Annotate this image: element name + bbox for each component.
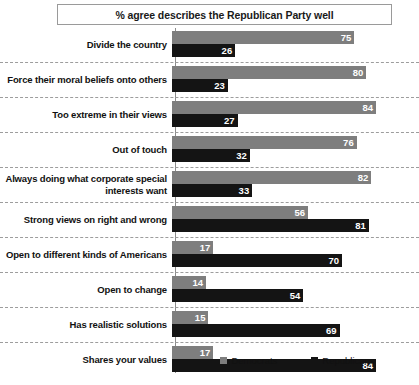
bar-value-label: 75 [341,32,355,43]
bar-republicans: 69 [172,324,340,337]
chart-title: % agree describes the Republican Party w… [115,9,333,21]
bar-democrats: 75 [172,31,354,44]
bar-row-inner: Force their moral beliefs onto others802… [0,63,419,97]
bar-row-inner: Out of touch7632 [0,133,419,167]
bar-value-label: 76 [343,137,357,148]
bar-republicans: 54 [172,289,303,302]
legend-item-democrats: Democrats [220,355,277,366]
bar-row: Out of touch7632 [0,133,419,168]
bar-group: 1569 [172,311,419,338]
bar-value-label: 14 [192,277,206,288]
bar-value-label: 82 [358,172,372,183]
bar-row: Too extreme in their views8427 [0,98,419,133]
bar-group: 1770 [172,241,419,268]
bar-row: Force their moral beliefs onto others802… [0,63,419,98]
bar-value-label: 54 [290,290,304,301]
category-label: Shares your values [0,354,172,366]
bar-row: Open to change1454 [0,273,419,308]
bar-row: Has realistic solutions1569 [0,308,419,343]
bar-democrats: 82 [172,171,371,184]
bar-republicans: 81 [172,219,369,232]
bar-group: 7526 [172,31,419,58]
bar-value-label: 15 [195,312,209,323]
bar-democrats: 80 [172,66,366,79]
bar-democrats: 17 [172,241,213,254]
legend-label: Democrats [231,355,277,366]
bar-group: 8427 [172,101,419,128]
bar-democrats: 15 [172,311,208,324]
bar-value-label: 56 [295,207,309,218]
category-label: Force their moral beliefs onto others [0,74,172,86]
bar-group: 5681 [172,206,419,233]
bar-row: Open to different kinds of Americans1770 [0,238,419,273]
bar-democrats: 56 [172,206,308,219]
bar-value-label: 69 [326,325,340,336]
bar-value-label: 80 [353,67,367,78]
bar-row-inner: Divide the country7526 [0,28,419,62]
bar-value-label: 33 [239,185,253,196]
bar-value-label: 32 [236,150,250,161]
bar-value-label: 81 [355,220,369,231]
chart-title-box: % agree describes the Republican Party w… [57,4,392,25]
bar-republicans: 26 [172,44,235,57]
bar-chart: % agree describes the Republican Party w… [0,0,419,385]
bar-row-inner: Open to different kinds of Americans1770 [0,238,419,272]
bar-republicans: 27 [172,114,238,127]
bar-republicans: 70 [172,254,342,267]
category-label: Always doing what corporate special inte… [0,173,172,196]
bar-value-label: 84 [363,102,377,113]
democrats-swatch [220,357,227,364]
category-label: Divide the country [0,39,172,51]
bar-value-label: 23 [214,80,228,91]
category-label: Open to change [0,284,172,296]
legend-item-republicans: Republicans [311,355,374,366]
bar-rows: Divide the country7526Force their moral … [0,28,419,377]
bar-row: Divide the country7526 [0,28,419,63]
category-label: Strong views on right and wrong [0,214,172,226]
bar-republicans: 32 [172,149,250,162]
bar-value-label: 27 [224,115,238,126]
bar-republicans: 33 [172,184,252,197]
bar-row-inner: Open to change1454 [0,273,419,307]
plot-area: Divide the country7526Force their moral … [0,28,419,356]
bar-republicans: 23 [172,79,228,92]
bar-democrats: 84 [172,101,376,114]
bar-row: Always doing what corporate special inte… [0,168,419,203]
bar-value-label: 17 [200,242,214,253]
bar-row: Strong views on right and wrong5681 [0,203,419,238]
bar-row-inner: Always doing what corporate special inte… [0,168,419,202]
legend-label: Republicans [322,355,374,366]
bar-democrats: 76 [172,136,357,149]
category-label: Out of touch [0,144,172,156]
bar-group: 7632 [172,136,419,163]
bar-democrats: 14 [172,276,206,289]
bar-value-label: 26 [222,45,236,56]
bar-row-inner: Has realistic solutions1569 [0,308,419,342]
bar-value-label: 70 [329,255,343,266]
category-label: Has realistic solutions [0,319,172,331]
bar-group: 1454 [172,276,419,303]
category-label: Open to different kinds of Americans [0,249,172,261]
bar-group: 8023 [172,66,419,93]
chart-legend: DemocratsRepublicans [176,355,419,366]
bar-row-inner: Too extreme in their views8427 [0,98,419,132]
bar-group: 8233 [172,171,419,198]
bar-row-inner: Strong views on right and wrong5681 [0,203,419,237]
category-label: Too extreme in their views [0,109,172,121]
republicans-swatch [311,357,318,364]
